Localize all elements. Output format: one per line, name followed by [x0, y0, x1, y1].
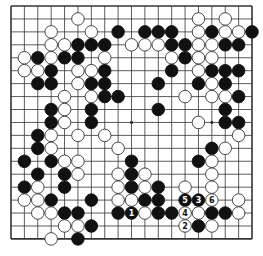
white-stone	[192, 116, 205, 129]
white-stone	[58, 155, 71, 168]
black-stone	[32, 142, 45, 155]
black-stone: 1	[125, 207, 138, 220]
go-board[interactable]: 536142	[0, 0, 263, 256]
black-stone	[58, 51, 71, 64]
white-stone	[219, 13, 232, 26]
white-stone	[98, 129, 111, 142]
white-stone	[179, 90, 192, 103]
black-stone	[72, 233, 85, 246]
white-stone	[98, 51, 111, 64]
white-stone	[125, 194, 138, 207]
white-stone	[152, 39, 165, 52]
white-stone	[58, 116, 71, 129]
white-stone	[45, 233, 58, 246]
move-number-label: 4	[182, 209, 188, 218]
white-stone	[206, 168, 219, 181]
white-stone	[18, 51, 31, 64]
white-stone	[139, 181, 152, 194]
white-stone	[58, 90, 71, 103]
black-stone	[85, 116, 98, 129]
black-stone	[179, 51, 192, 64]
black-stone	[219, 103, 232, 116]
white-stone	[45, 26, 58, 39]
white-stone	[192, 51, 205, 64]
white-stone	[206, 181, 219, 194]
black-stone: 3	[192, 194, 205, 207]
black-stone	[58, 181, 71, 194]
black-stone	[139, 26, 152, 39]
white-stone	[192, 207, 205, 220]
white-stone	[58, 220, 71, 233]
black-stone	[152, 194, 165, 207]
black-stone: 5	[179, 194, 192, 207]
move-number-label: 6	[209, 196, 215, 205]
black-stone	[206, 142, 219, 155]
white-stone	[72, 64, 85, 77]
black-stone	[206, 64, 219, 77]
black-stone	[192, 77, 205, 90]
white-stone	[165, 51, 178, 64]
black-stone	[18, 155, 31, 168]
white-stone	[85, 26, 98, 39]
black-stone	[232, 116, 245, 129]
black-stone	[152, 103, 165, 116]
black-stone	[32, 168, 45, 181]
black-stone	[246, 26, 259, 39]
move-number-label: 1	[129, 209, 135, 218]
black-stone	[32, 51, 45, 64]
white-stone	[179, 181, 192, 194]
move-number-label: 2	[182, 222, 188, 231]
black-stone	[125, 168, 138, 181]
white-stone	[72, 77, 85, 90]
stones-layer[interactable]: 536142	[18, 13, 258, 246]
white-stone	[58, 39, 71, 52]
black-stone	[45, 64, 58, 77]
black-stone	[45, 194, 58, 207]
black-stone	[219, 64, 232, 77]
white-stone	[139, 168, 152, 181]
star-point	[130, 121, 133, 124]
white-stone	[32, 207, 45, 220]
black-stone	[85, 77, 98, 90]
black-stone	[85, 103, 98, 116]
black-stone	[219, 39, 232, 52]
black-stone	[165, 207, 178, 220]
black-stone	[219, 207, 232, 220]
white-stone	[125, 39, 138, 52]
black-stone	[98, 90, 111, 103]
white-stone	[206, 90, 219, 103]
white-stone	[232, 129, 245, 142]
white-stone	[219, 90, 232, 103]
white-stone	[32, 194, 45, 207]
white-stone	[72, 220, 85, 233]
black-stone	[112, 90, 125, 103]
white-stone	[72, 129, 85, 142]
black-stone	[206, 26, 219, 39]
white-stone	[58, 103, 71, 116]
black-stone	[219, 77, 232, 90]
white-stone	[32, 64, 45, 77]
black-stone	[45, 116, 58, 129]
black-stone	[232, 90, 245, 103]
white-stone	[139, 207, 152, 220]
black-stone	[85, 220, 98, 233]
white-stone	[45, 142, 58, 155]
black-stone	[192, 220, 205, 233]
white-stone	[192, 39, 205, 52]
white-stone	[206, 77, 219, 90]
black-stone	[139, 194, 152, 207]
white-stone	[85, 90, 98, 103]
black-stone	[179, 39, 192, 52]
white-stone	[219, 26, 232, 39]
black-stone	[72, 39, 85, 52]
white-stone	[232, 26, 245, 39]
move-number-label: 5	[182, 196, 188, 205]
white-stone	[72, 155, 85, 168]
white-stone	[139, 39, 152, 52]
black-stone	[152, 181, 165, 194]
black-stone	[45, 77, 58, 90]
white-stone: 4	[179, 207, 192, 220]
black-stone	[98, 64, 111, 77]
black-stone	[165, 26, 178, 39]
white-stone	[206, 220, 219, 233]
